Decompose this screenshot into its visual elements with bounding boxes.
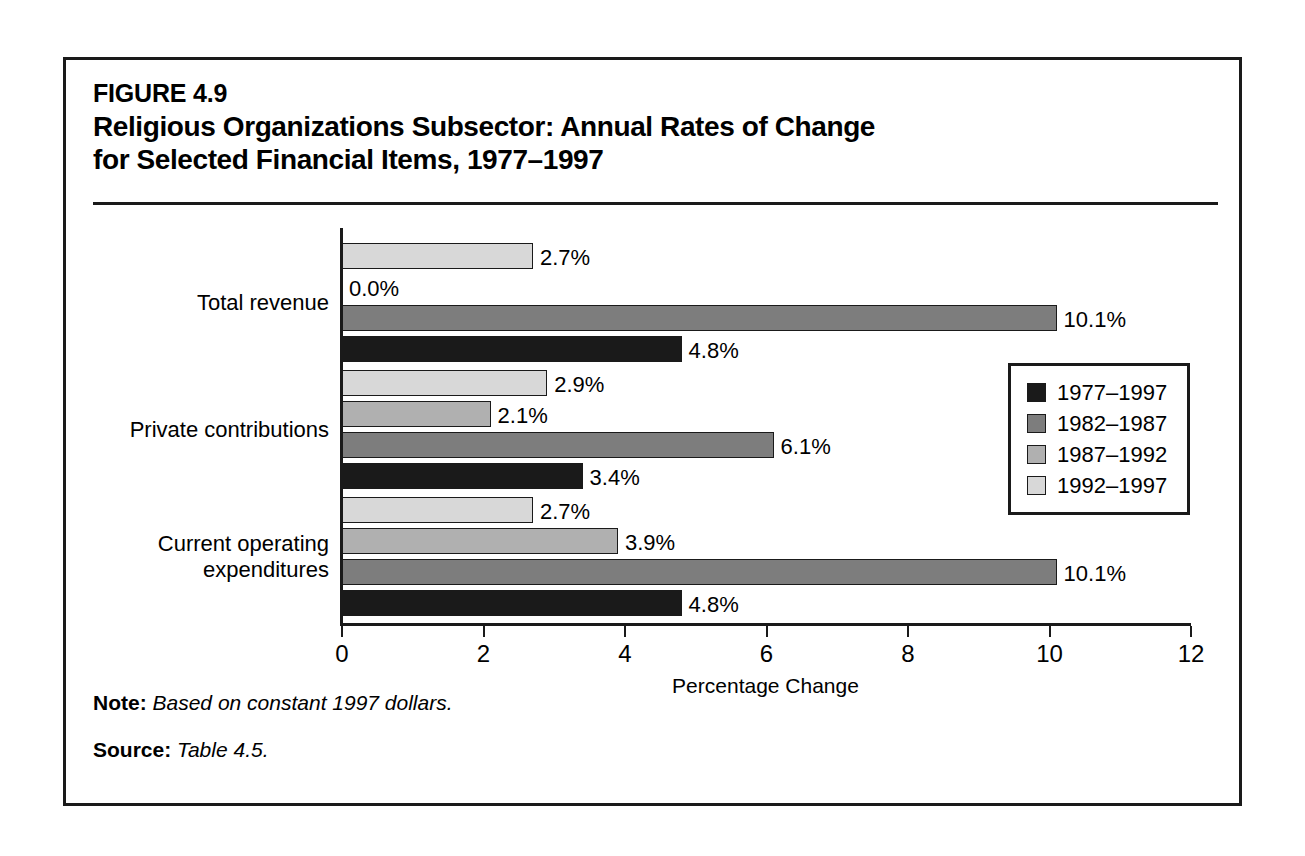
legend-item: 1977–1997 — [1011, 377, 1187, 408]
x-axis-tick-label: 10 — [1020, 640, 1080, 668]
legend-item: 1987–1992 — [1011, 439, 1187, 470]
category-label-line: expenditures — [0, 557, 329, 583]
x-axis-tick-label: 0 — [312, 640, 372, 668]
category-label-line: Total revenue — [0, 290, 329, 316]
bar-value-label: 2.7% — [540, 499, 590, 525]
x-axis-tick — [624, 626, 626, 637]
bar — [342, 528, 618, 554]
chart-legend: 1977–19971982–19871987–19921992–1997 — [1008, 363, 1190, 515]
x-axis-tick-label: 12 — [1161, 640, 1221, 668]
bar-value-label: 6.1% — [781, 434, 831, 460]
legend-item-label: 1982–1987 — [1057, 411, 1167, 436]
legend-item-label: 1992–1997 — [1057, 473, 1167, 498]
bar — [342, 463, 583, 489]
legend-swatch-icon — [1027, 383, 1046, 402]
bar-value-label: 4.8% — [689, 338, 739, 364]
category-label: Total revenue — [0, 290, 329, 316]
bar — [342, 336, 682, 362]
bar-value-label: 3.4% — [590, 465, 640, 491]
bar — [342, 432, 774, 458]
bar — [342, 305, 1057, 331]
bar — [342, 243, 533, 269]
bar-value-label: 3.9% — [625, 530, 675, 556]
x-axis-tick-label: 8 — [878, 640, 938, 668]
x-axis-tick — [766, 626, 768, 637]
legend-swatch-icon — [1027, 476, 1046, 495]
bar — [342, 497, 533, 523]
bar — [342, 590, 682, 616]
source-label: Source: — [93, 738, 171, 761]
bar-value-label: 2.9% — [554, 372, 604, 398]
x-axis-tick — [1049, 626, 1051, 637]
legend-item-label: 1977–1997 — [1057, 380, 1167, 405]
legend-item: 1992–1997 — [1011, 470, 1187, 501]
bar — [342, 559, 1057, 585]
figure-footnotes: Note: Based on constant 1997 dollars. So… — [93, 690, 1183, 784]
category-label: Current operatingexpenditures — [0, 531, 329, 583]
category-label: Private contributions — [0, 417, 329, 443]
note-label: Note: — [93, 691, 147, 714]
bar-value-label: 0.0% — [349, 276, 399, 302]
legend-swatch-icon — [1027, 445, 1046, 464]
bar-value-label: 4.8% — [689, 592, 739, 618]
category-label-line: Current operating — [0, 531, 329, 557]
source-text: Table 4.5. — [171, 738, 268, 761]
x-axis-tick — [483, 626, 485, 637]
x-axis-tick-label: 4 — [595, 640, 655, 668]
figure-frame: FIGURE 4.9 Religious Organizations Subse… — [63, 57, 1242, 806]
bar-value-label: 2.7% — [540, 245, 590, 271]
bar — [342, 401, 491, 427]
x-axis-tick-label: 6 — [737, 640, 797, 668]
x-axis-tick-label: 2 — [454, 640, 514, 668]
legend-item-label: 1987–1992 — [1057, 442, 1167, 467]
x-axis-tick — [907, 626, 909, 637]
bar — [342, 370, 547, 396]
note-text: Based on constant 1997 dollars. — [147, 691, 453, 714]
legend-item: 1982–1987 — [1011, 408, 1187, 439]
legend-swatch-icon — [1027, 414, 1046, 433]
bar-value-label: 2.1% — [498, 403, 548, 429]
bar-value-label: 10.1% — [1064, 561, 1126, 587]
note-line: Note: Based on constant 1997 dollars. — [93, 690, 1183, 715]
x-axis-tick — [1190, 626, 1192, 637]
bar-value-label: 10.1% — [1064, 307, 1126, 333]
source-line: Source: Table 4.5. — [93, 737, 1183, 762]
x-axis-tick — [341, 626, 343, 637]
category-label-line: Private contributions — [0, 417, 329, 443]
